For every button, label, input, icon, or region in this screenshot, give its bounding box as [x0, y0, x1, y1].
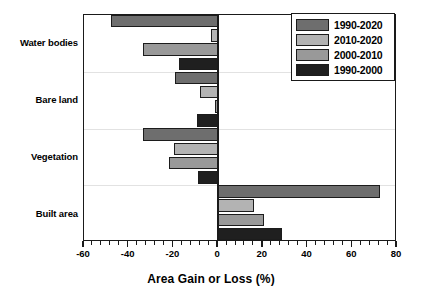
x-tick-label: -60: [76, 248, 90, 259]
x-tick-label: -40: [121, 248, 135, 259]
legend-item: 1990-2000: [296, 62, 390, 77]
legend-item: 1990-2020: [296, 17, 390, 32]
x-tick-minor: [163, 241, 164, 245]
legend-swatch: [296, 34, 329, 46]
bar: [143, 128, 218, 141]
x-axis-title: Area Gain or Loss (%): [0, 272, 422, 286]
x-tick-minor: [360, 241, 361, 245]
bar: [218, 214, 264, 227]
x-tick-minor: [199, 241, 200, 245]
x-tick-minor: [342, 241, 343, 245]
x-tick-minor: [91, 241, 92, 245]
legend-swatch: [296, 19, 329, 31]
x-tick-major: [395, 241, 396, 247]
bar: [175, 72, 219, 85]
legend: 1990-20202010-20202000-20101990-2000: [291, 13, 395, 81]
bar: [111, 15, 218, 28]
x-tick-minor: [279, 241, 280, 245]
bar: [218, 185, 380, 198]
x-tick-minor: [154, 241, 155, 245]
x-tick-minor: [208, 241, 209, 245]
bar: [198, 171, 218, 184]
x-tick-minor: [190, 241, 191, 245]
legend-label: 2000-2010: [334, 49, 382, 61]
x-tick-major: [216, 241, 217, 247]
legend-label: 2010-2020: [334, 34, 382, 46]
x-tick-minor: [270, 241, 271, 245]
x-tick-minor: [297, 241, 298, 245]
x-tick-minor: [378, 241, 379, 245]
x-tick-major: [261, 241, 262, 247]
legend-label: 1990-2020: [334, 19, 382, 31]
x-tick-label: 40: [301, 248, 312, 259]
y-axis-label-bare-land: Bare land: [36, 94, 78, 105]
x-tick-label: 20: [257, 248, 268, 259]
legend-label: 1990-2000: [334, 64, 382, 76]
x-tick-major: [306, 241, 307, 247]
figure-container: Water bodiesBare landVegetationBuilt are…: [0, 0, 422, 302]
x-tick-minor: [288, 241, 289, 245]
y-axis-label-vegetation: Vegetation: [31, 150, 78, 161]
y-axis-label-water-bodies: Water bodies: [20, 37, 78, 48]
x-tick-minor: [387, 241, 388, 245]
bar: [197, 114, 218, 127]
bar: [174, 143, 218, 156]
y-axis-category-labels: Water bodiesBare landVegetationBuilt are…: [0, 14, 78, 241]
bar: [218, 199, 254, 212]
x-tick-major: [351, 241, 352, 247]
x-tick-minor: [136, 241, 137, 245]
bar: [169, 157, 218, 170]
x-tick-label: -20: [166, 248, 180, 259]
zero-axis-line: [217, 15, 219, 240]
x-tick-minor: [226, 241, 227, 245]
legend-swatch: [296, 49, 329, 61]
x-tick-minor: [118, 241, 119, 245]
x-tick-minor: [145, 241, 146, 245]
bar: [143, 43, 218, 56]
x-tick-label: 0: [214, 248, 219, 259]
bar: [179, 58, 218, 71]
y-axis-label-built-area: Built area: [36, 207, 78, 218]
gridline: [84, 129, 395, 130]
x-tick-minor: [333, 241, 334, 245]
legend-item: 2010-2020: [296, 32, 390, 47]
x-tick-minor: [243, 241, 244, 245]
x-tick-label: 80: [391, 248, 402, 259]
x-tick-minor: [369, 241, 370, 245]
x-tick-minor: [181, 241, 182, 245]
x-tick-minor: [324, 241, 325, 245]
x-tick-label: 60: [346, 248, 357, 259]
legend-swatch: [296, 64, 329, 76]
x-tick-major: [172, 241, 173, 247]
legend-item: 2000-2010: [296, 47, 390, 62]
bar: [200, 86, 218, 99]
x-axis: -60-40-20020406080: [83, 241, 396, 271]
x-tick-major: [127, 241, 128, 247]
x-tick-minor: [100, 241, 101, 245]
x-tick-minor: [315, 241, 316, 245]
x-tick-minor: [252, 241, 253, 245]
x-tick-major: [82, 241, 83, 247]
x-tick-minor: [109, 241, 110, 245]
bar: [218, 228, 282, 241]
x-tick-minor: [235, 241, 236, 245]
